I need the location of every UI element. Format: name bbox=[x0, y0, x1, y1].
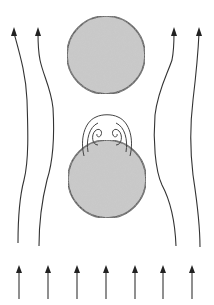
inflow-arrow-icon bbox=[160, 265, 166, 299]
inflow-arrow-icon bbox=[132, 265, 138, 299]
diagram-canvas bbox=[0, 0, 214, 305]
streamline-left-inner bbox=[38, 33, 54, 246]
streamline-right-inner bbox=[154, 33, 176, 246]
streamline-right-outer bbox=[191, 33, 200, 247]
inflow-arrow-icon bbox=[45, 265, 51, 299]
streamline-arrowhead-icon bbox=[11, 27, 17, 36]
lower-sphere bbox=[68, 140, 146, 218]
inflow-arrows bbox=[16, 265, 195, 299]
flow-diagram bbox=[0, 0, 214, 305]
streamline-arrowhead-icon bbox=[196, 27, 202, 36]
streamline-left-outer bbox=[14, 33, 28, 243]
inflow-arrow-icon bbox=[103, 265, 109, 299]
inflow-arrow-icon bbox=[189, 265, 195, 299]
streamline-arrowhead-icon bbox=[35, 27, 41, 36]
inflow-arrow-icon bbox=[16, 265, 22, 299]
upper-sphere bbox=[67, 16, 145, 94]
streamline-arrowhead-icon bbox=[171, 27, 177, 36]
inflow-arrow-icon bbox=[74, 265, 80, 299]
